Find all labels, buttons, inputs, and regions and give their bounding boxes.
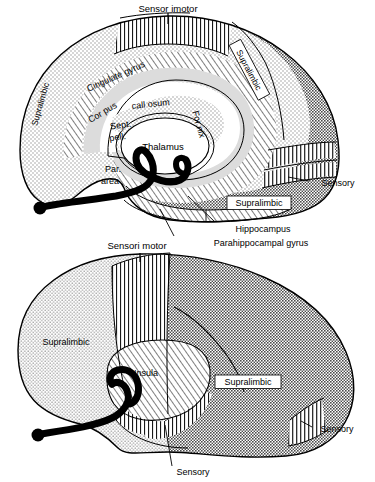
lateral-olfactory-bulb [32, 429, 45, 442]
label-lateral-supralimbic-right: Supralimbic [224, 377, 272, 387]
label-lateral-supralimbic-left: Supralimbic [42, 337, 90, 347]
anatomy-diagram: Sensor imotor Supralimbic Supralimbic Ci… [0, 0, 375, 482]
lateral-panel: Sensori motor Supralimbic Insula Suprali… [0, 240, 375, 482]
label-lateral-sensory-right: Sensory [320, 424, 354, 434]
label-medial-sensorimotor: Sensor imotor [138, 3, 197, 14]
label-medial-sensory: Sensory [321, 178, 355, 188]
label-lateral-insula: Insula [134, 368, 158, 378]
label-medial-thalamus: Thalamus [142, 141, 184, 152]
label-medial-hippocampus: Hippocampus [235, 224, 291, 234]
label-medial-area: area [101, 176, 119, 186]
label-medial-parahippocampal-gyrus: Parahippocampal gyrus [214, 238, 309, 248]
label-medial-supralimbic-temporal: Supralimbic [235, 198, 283, 208]
label-lateral-sensory-bottom: Sensory [176, 467, 210, 477]
medial-olfactory-bulb [34, 202, 47, 215]
label-lateral-sensorimotor: Sensori motor [107, 240, 166, 251]
medial-panel: Sensor imotor Supralimbic Supralimbic Ci… [0, 0, 375, 248]
figure-canvas: Sensor imotor Supralimbic Supralimbic Ci… [0, 0, 375, 482]
label-medial-par: Par. [105, 164, 121, 174]
